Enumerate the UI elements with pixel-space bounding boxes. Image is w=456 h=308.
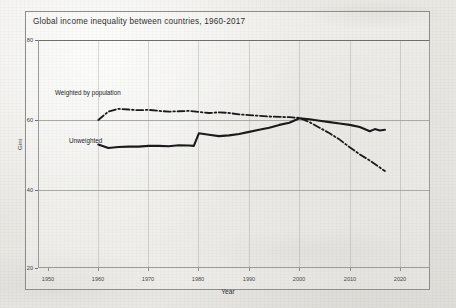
series-line-unweighted [98,118,385,148]
chart-series-layer [0,0,456,308]
series-line-weighted [98,109,385,171]
